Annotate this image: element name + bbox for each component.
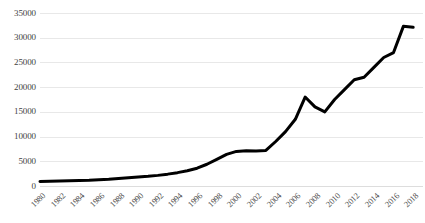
line-chart: 05000100001500020000250003000035000 1980… bbox=[0, 0, 425, 223]
y-tick-label-25000: 25000 bbox=[0, 58, 36, 67]
x-axis: 1980198219841986198819901992199419961998… bbox=[40, 186, 423, 223]
y-tick-label-30000: 30000 bbox=[0, 33, 36, 42]
plot-area bbox=[40, 13, 423, 186]
y-tick-label-20000: 20000 bbox=[0, 83, 36, 92]
series-layer bbox=[40, 13, 423, 186]
y-tick-label-5000: 5000 bbox=[0, 157, 36, 166]
y-tick-label-0: 0 bbox=[0, 182, 36, 191]
y-axis: 05000100001500020000250003000035000 bbox=[0, 0, 36, 223]
data-line-series-1 bbox=[40, 26, 413, 181]
y-tick-label-35000: 35000 bbox=[0, 9, 36, 18]
y-tick-label-10000: 10000 bbox=[0, 132, 36, 141]
y-tick-label-15000: 15000 bbox=[0, 107, 36, 116]
